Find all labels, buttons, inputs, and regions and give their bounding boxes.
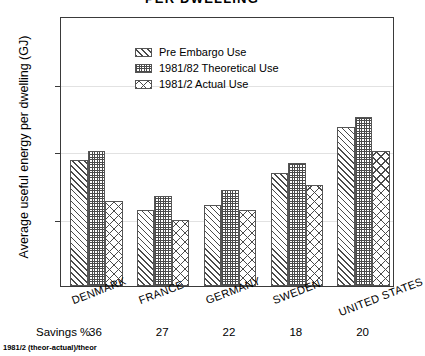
bar-group-united-states [337,18,390,286]
chart-title: PER DWELLING [0,0,404,6]
bar-pre-embargo-use [271,173,289,286]
y-axis-tick [55,221,61,222]
y-axis-title: Average useful energy per dwelling (GJ) [17,17,31,277]
legend-label: 1981/82 Theoretical Use [159,63,279,74]
bar-theoretical-use [288,163,306,286]
legend: Pre Embargo Use 1981/82 Theoretical Use … [135,46,279,94]
bar-pre-embargo-use [137,210,155,286]
legend-swatch-pre-embargo-use [135,48,152,57]
footnote: 1981/2 (theor-actual)/theor [3,343,97,352]
bar-actual-use [306,185,324,286]
legend-label: Pre Embargo Use [159,47,246,58]
bar-theoretical-use [88,151,106,286]
y-axis-tick [55,153,61,154]
bar-actual-use [172,220,190,286]
bar-theoretical-use [355,117,373,286]
bar-theoretical-use [154,196,172,286]
savings-value: 18 [276,326,316,338]
legend-swatch-actual-use [135,80,152,89]
savings-value: 20 [343,326,383,338]
legend-item: 1981/2 Actual Use [135,78,279,92]
legend-swatch-theoretical-use [135,64,152,73]
bar-actual-use [105,201,123,286]
legend-item: Pre Embargo Use [135,46,279,60]
y-axis-tick [55,86,61,87]
plot-area: Pre Embargo Use 1981/82 Theoretical Use … [60,17,394,287]
bar-pre-embargo-use [204,205,222,286]
bar-group-denmark [70,18,123,286]
legend-item: 1981/82 Theoretical Use [135,62,279,76]
savings-value: 22 [209,326,249,338]
bar-pre-embargo-use [70,160,88,286]
savings-value: 36 [75,326,115,338]
savings-value: 27 [142,326,182,338]
bar-theoretical-use [221,190,239,286]
legend-label: 1981/2 Actual Use [159,79,248,90]
bar-pre-embargo-use [337,127,355,286]
bar-actual-use [372,151,390,286]
